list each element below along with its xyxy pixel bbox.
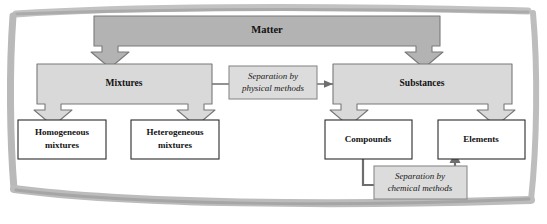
node-substances[interactable]: Substances bbox=[330, 64, 515, 126]
diagram-canvas: Matter Mixtures Substances Homogeneous m… bbox=[0, 0, 547, 224]
node-mixtures[interactable]: Mixtures bbox=[34, 64, 215, 126]
matter-label: Matter bbox=[251, 24, 283, 35]
homogeneous-mixtures-label-line2: mixtures bbox=[45, 140, 79, 150]
substances-shape bbox=[330, 64, 515, 126]
note-physical-separation[interactable]: Separation by physical methods bbox=[229, 66, 317, 99]
node-matter[interactable]: Matter bbox=[91, 16, 443, 68]
frame-right-edge bbox=[531, 13, 536, 200]
note-chemical-separation[interactable]: Separation by chemical methods bbox=[374, 166, 467, 199]
heterogeneous-mixtures-label-line1: Heterogeneous bbox=[147, 127, 204, 137]
node-compounds[interactable]: Compounds bbox=[325, 120, 412, 159]
mixtures-label: Mixtures bbox=[106, 78, 143, 88]
mixtures-shape bbox=[34, 64, 215, 126]
homogeneous-mixtures-label-line1: Homogeneous bbox=[35, 127, 89, 137]
physical-separation-line1: Separation by bbox=[248, 71, 298, 81]
classification-of-matter-diagram: Matter Mixtures Substances Homogeneous m… bbox=[0, 0, 547, 224]
heterogeneous-mixtures-label-line2: mixtures bbox=[158, 140, 192, 150]
substances-label: Substances bbox=[400, 78, 445, 88]
node-elements[interactable]: Elements bbox=[438, 120, 525, 159]
elements-label: Elements bbox=[463, 134, 499, 144]
physical-separation-line2: physical methods bbox=[241, 83, 305, 93]
frame-left-edge bbox=[10, 16, 14, 189]
chemical-separation-line2: chemical methods bbox=[388, 183, 453, 193]
node-homogeneous-mixtures[interactable]: Homogeneous mixtures bbox=[18, 120, 106, 159]
node-heterogeneous-mixtures[interactable]: Heterogeneous mixtures bbox=[131, 120, 219, 159]
compounds-label: Compounds bbox=[345, 134, 392, 144]
arrowhead-to-substances bbox=[324, 80, 333, 87]
chemical-separation-line1: Separation by bbox=[395, 171, 445, 181]
